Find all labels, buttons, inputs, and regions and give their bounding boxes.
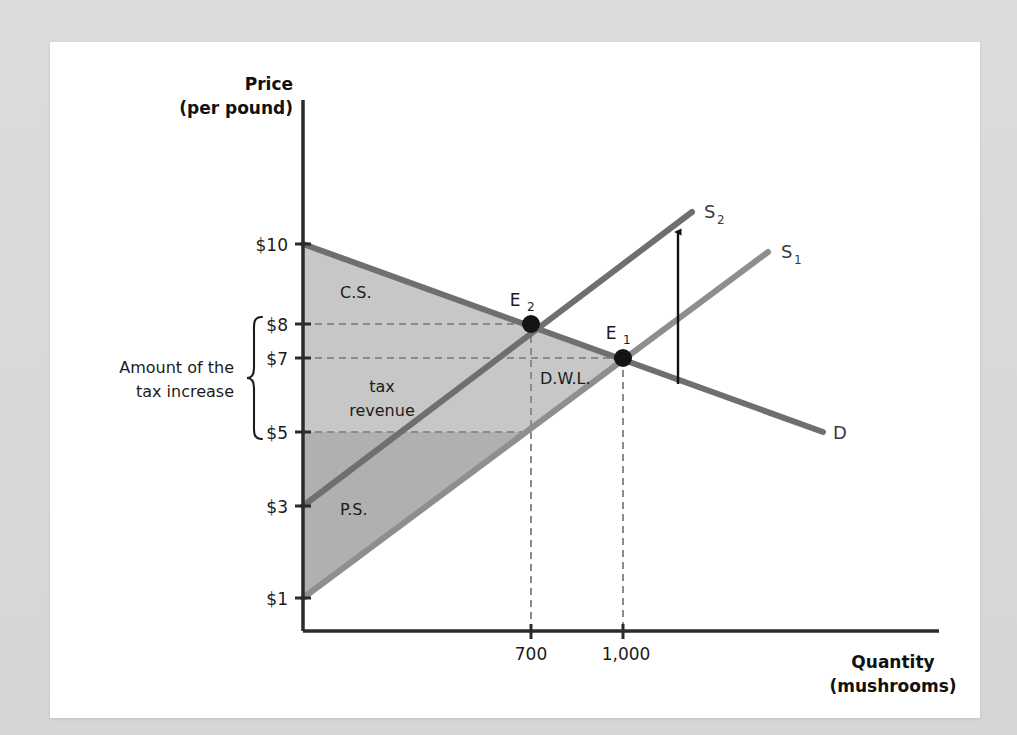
y-axis-subtitle: (per pound) (179, 98, 293, 118)
y-axis-title: Price (245, 74, 293, 94)
curve-label-s1-sub: 1 (794, 253, 802, 267)
label-consumer-surplus: C.S. (340, 283, 372, 302)
curve-label-s1: S (781, 241, 792, 262)
region-tax-revenue (303, 324, 531, 432)
label-deadweight-loss: D.W.L. (540, 369, 590, 388)
y-tick-label-1: $1 (266, 589, 288, 609)
y-tick-label-3: $3 (266, 497, 288, 517)
curve-label-s2-sub: 2 (717, 213, 725, 227)
page-background: $10 $8 $7 $5 $3 $1 700 1,000 Price (per … (0, 0, 1017, 735)
equilibrium-label-e1-sub: 1 (623, 333, 631, 347)
tax-increase-bracket-icon (247, 317, 262, 439)
label-producer-surplus: P.S. (340, 500, 367, 519)
equilibrium-label-e1: E (606, 323, 617, 343)
equilibrium-point-e1 (614, 349, 632, 367)
equilibrium-point-e2 (522, 315, 540, 333)
figure-card: $10 $8 $7 $5 $3 $1 700 1,000 Price (per … (50, 42, 980, 718)
label-tax-revenue-line1: tax (369, 377, 395, 396)
y-tick-label-7: $7 (266, 349, 288, 369)
equilibrium-label-e2-sub: 2 (527, 300, 535, 314)
curve-label-s2: S (704, 201, 715, 222)
equilibrium-label-e2: E (510, 290, 521, 310)
tax-increase-label-line1: Amount of the (119, 358, 234, 377)
x-tick-label-700: 700 (515, 644, 547, 664)
y-tick-label-8: $8 (266, 315, 288, 335)
label-tax-revenue-line2: revenue (349, 401, 415, 420)
curve-label-d: D (833, 422, 847, 443)
x-tick-label-1000: 1,000 (602, 644, 651, 664)
y-tick-label-5: $5 (266, 423, 288, 443)
x-axis-title: Quantity (851, 652, 934, 672)
economics-supply-demand-chart: $10 $8 $7 $5 $3 $1 700 1,000 Price (per … (50, 42, 980, 718)
y-tick-label-10: $10 (256, 235, 288, 255)
tax-increase-label-line2: tax increase (136, 382, 234, 401)
x-axis-subtitle: (mushrooms) (829, 676, 956, 696)
